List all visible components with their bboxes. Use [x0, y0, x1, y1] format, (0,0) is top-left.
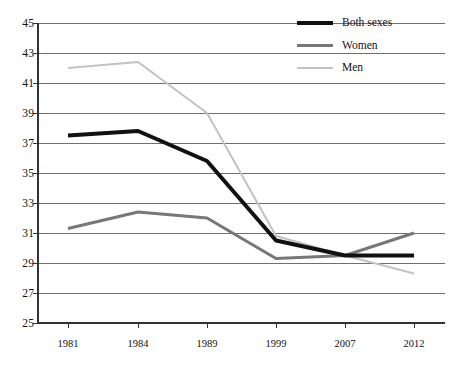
x-tick-label: 2007: [335, 338, 356, 349]
x-tick-label: 1981: [58, 338, 79, 349]
x-tick-label: 1984: [128, 338, 149, 349]
legend-item-women: Women: [297, 40, 443, 52]
x-tick-label: 1989: [197, 338, 218, 349]
legend-swatch-men-icon: [297, 67, 333, 69]
legend-label-both-sexes: Both sexes: [342, 17, 392, 29]
legend-item-both-sexes: Both sexes: [297, 17, 443, 29]
x-tick-label: 1999: [266, 338, 287, 349]
legend-swatch-both-sexes-icon: [297, 21, 333, 25]
x-tick-label: 2012: [404, 338, 425, 349]
legend-swatch-women-icon: [297, 44, 333, 47]
line-chart: 45 43 41 39 37 35 33 31 29 27 25 1981 19…: [0, 0, 452, 369]
legend-label-men: Men: [342, 62, 363, 74]
chart-legend: Both sexes Women Men: [297, 17, 443, 74]
legend-label-women: Women: [342, 40, 377, 52]
legend-item-men: Men: [297, 62, 443, 74]
